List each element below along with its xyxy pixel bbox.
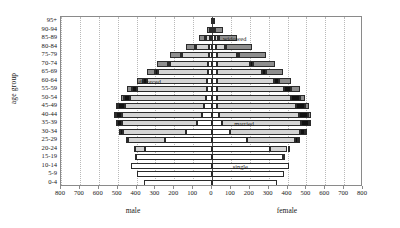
bar-segment-widowed [266,69,283,75]
bar-segment-married [196,44,209,50]
pyramid-row [61,129,361,135]
pyramid-row [61,95,361,101]
y-tick-label: 55-59 [17,84,57,91]
bar-segment-married [158,69,208,75]
bar-segment-widowed [291,86,299,92]
bar-segment-single [212,180,277,185]
bar-segment-widowed [199,35,205,41]
bar-segment-single [165,137,212,143]
bar-segment-single [137,171,213,177]
bar-segment-divorced [124,95,130,101]
bar-segment-single [212,146,270,152]
bar-segment-widowed [288,146,290,152]
bar-segment-married [247,137,295,143]
y-tick-label: 20-24 [17,144,57,151]
pyramid-row [61,69,361,75]
bar-segment-divorced [116,112,123,118]
bar-segment-single [212,163,289,169]
pyramid-row [61,52,361,58]
bar-segment-married [217,69,262,75]
bar-segment-divorced [296,103,306,109]
bar-segment-divorced [132,86,137,92]
bar-segment-widowed [298,137,300,143]
pyramid-row [61,112,361,118]
bar-segment-single [204,103,212,109]
bar-segment-widowed [226,44,251,50]
y-tick-label: 30-34 [17,127,57,134]
bar-segment-divorced [143,78,147,84]
pyramid-row [61,180,361,185]
y-tick-label: 95+ [17,16,57,23]
pyramid-row [61,86,361,92]
bar-segment-single [212,120,222,126]
bar-segment-divorced [155,69,158,75]
bar-segment-widowed [170,52,181,58]
bar-segment-widowed [279,78,291,84]
bar-segment-widowed [215,27,224,33]
bar-segment-married [123,129,185,135]
pyramid-row [61,171,361,177]
bar-segment-single [212,171,284,177]
bar-segment-widowed [239,52,265,58]
bar-segment-divorced [301,120,309,126]
bar-segment-widowed [114,112,116,118]
bar-segment-single [186,129,212,135]
bar-segment-divorced [168,61,170,67]
bar-segment-married [135,154,137,160]
pyramid-row [61,154,361,160]
y-tick-label: 85-89 [17,33,57,40]
bar-segment-widowed [116,103,118,109]
bar-segment-married [216,44,225,50]
y-tick-label: 75-79 [17,50,57,57]
bar-segment-widowed [219,35,237,41]
bar-segment-divorced [134,146,136,152]
bar-segment-widowed [186,44,196,50]
pyramid-row [61,27,361,33]
plot-inner: widoweddivorcedmarriedsingle [61,17,361,185]
pyramid-row [61,18,361,24]
bar-segment-single [212,137,247,143]
pyramid-row [61,103,361,109]
x-axis-label-male: male [103,206,163,215]
bar-segment-married [219,112,299,118]
bar-segment-divorced [195,44,197,50]
bar-segment-married [222,120,301,126]
y-tick-label: 15-19 [17,152,57,159]
bar-segment-married [217,78,274,84]
bar-segment-widowed [305,103,308,109]
y-tick-label: 65-69 [17,67,57,74]
bar-segment-single [197,120,212,126]
x-axis-label-female: female [257,206,317,215]
bar-segment-married [270,146,288,152]
bar-segment-married [217,103,295,109]
bar-segment-married [170,61,209,67]
bar-segment-single [144,180,212,185]
bar-segment-married [137,86,207,92]
bar-segment-married [217,86,284,92]
bar-segment-married [283,154,286,160]
pyramid-row [61,78,361,84]
plot-area: widoweddivorcedmarriedsingle [60,16,362,186]
y-tick-label: 70-74 [17,59,57,66]
y-tick-label: 10-14 [17,161,57,168]
bar-segment-widowed [119,129,121,135]
bar-segment-widowed [305,129,307,135]
bar-segment-married [122,112,201,118]
bar-segment-divorced [205,35,207,41]
bar-segment-married [217,52,238,58]
bar-segment-married [122,120,197,126]
pyramid-row [61,61,361,67]
bar-segment-single [212,154,283,160]
bar-segment-widowed [207,27,209,33]
bar-segment-married [217,95,291,101]
bar-segment-single [145,146,212,152]
bar-segment-widowed [309,120,311,126]
y-tick-label: 35-39 [17,118,57,125]
bar-segment-single [131,163,212,169]
bar-segment-widowed [157,61,167,67]
bar-segment-widowed [253,61,275,67]
bar-segment-single [202,112,212,118]
y-tick-label: 0-4 [17,178,57,185]
bar-segment-divorced [181,52,183,58]
y-tick-label: 60-64 [17,76,57,83]
